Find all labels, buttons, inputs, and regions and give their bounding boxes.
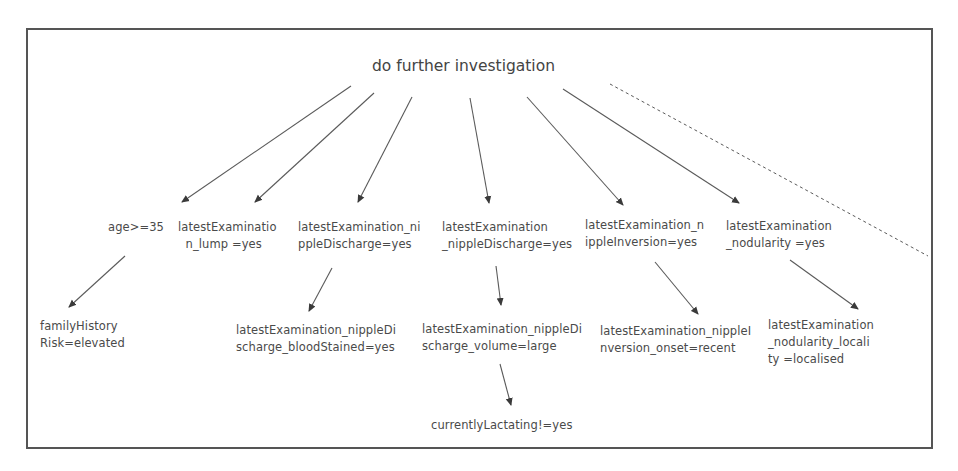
edge-root-nod [563, 89, 739, 203]
node-inversion-onset: latestExamination_nippleI nversion_onset… [600, 323, 751, 357]
edge-root-lump [255, 93, 374, 202]
edge-inv-onset [655, 262, 698, 314]
edge-nd2-vol [496, 266, 501, 305]
edge-root-age [182, 86, 351, 202]
edge-root-nd1 [358, 97, 412, 202]
edge-root-inv [527, 97, 623, 205]
edge-nd1-blood [309, 268, 332, 311]
edge-vol-lact [500, 364, 511, 405]
node-age: age>=35 [108, 219, 164, 236]
node-currently-lactating: currentlyLactating!=yes [431, 417, 573, 434]
node-blood-stained: latestExamination_nippleDi scharge_blood… [236, 322, 396, 356]
node-discharge-volume: latestExamination_nippleDi scharge_volum… [422, 321, 582, 355]
node-nodularity: latestExamination _nodularity =yes [726, 218, 832, 252]
edge-root-nd2 [470, 98, 489, 203]
root-node: do further investigation [372, 57, 555, 75]
edge-age-fam [69, 256, 125, 307]
node-nipple-discharge-1: latestExamination_ni ppleDischarge=yes [298, 219, 420, 253]
node-nodularity-locality: latestExamination _nodularity_locali ty … [768, 317, 874, 368]
node-nipple-inversion: latestExamination_n ippleInversion=yes [585, 217, 704, 251]
node-family-history: familyHistory Risk=elevated [40, 318, 125, 352]
node-nipple-discharge-2: latestExamination _nippleDischarge=yes [442, 219, 572, 253]
node-lump: latestExaminatio n_lump =yes [178, 219, 277, 253]
edge-nod-loc [790, 260, 858, 309]
